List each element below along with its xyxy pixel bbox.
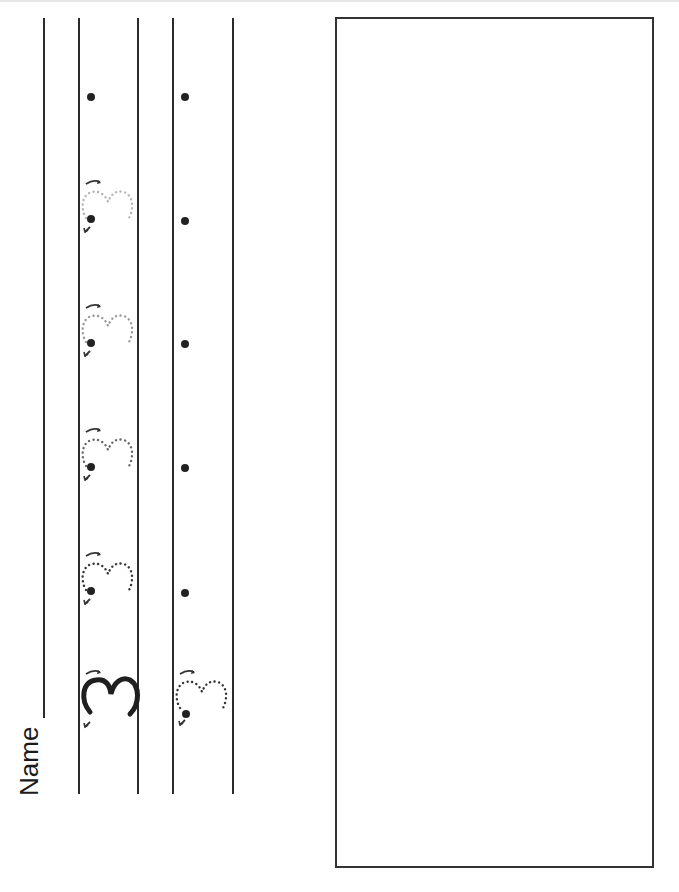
model-digit-3 [78, 662, 148, 732]
dotted-3-trace-dark [78, 544, 148, 614]
start-dot [181, 589, 189, 597]
scan-edge-top [0, 0, 679, 2]
start-dot [87, 93, 95, 101]
name-label: Name [14, 727, 45, 796]
dotted-3-trace-row2 [172, 662, 242, 732]
dotted-3-trace-light [78, 296, 148, 366]
drawing-box[interactable] [335, 17, 654, 868]
start-dot [181, 464, 189, 472]
start-dot [181, 217, 189, 225]
name-write-line[interactable] [43, 18, 45, 718]
dotted-3-trace-lightest [78, 172, 148, 242]
start-dot [181, 340, 189, 348]
start-dot [181, 93, 189, 101]
dotted-3-trace-medium [78, 420, 148, 490]
